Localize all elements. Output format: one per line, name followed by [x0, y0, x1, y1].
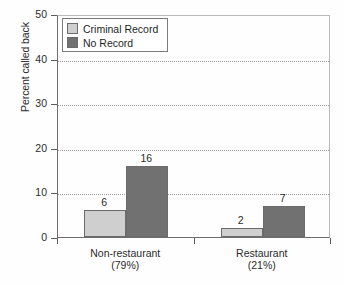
x-category-label: Restaurant(21%) [192, 247, 332, 271]
y-tick-label: 30 [17, 98, 47, 109]
gridline [58, 61, 329, 62]
x-tick-mark [57, 238, 58, 244]
x-category-name: Restaurant [236, 247, 287, 259]
y-tick-label: 20 [17, 143, 47, 154]
figure-caption [4, 276, 339, 285]
y-tick-label: 0 [17, 232, 47, 243]
x-category-share: (21%) [192, 259, 332, 271]
gridline [58, 105, 329, 106]
bar-criminal-record [221, 228, 263, 237]
gridline [58, 150, 329, 151]
legend: Criminal Record No Record [62, 18, 168, 52]
legend-item-no-record: No Record [67, 36, 163, 49]
legend-item-criminal-record: Criminal Record [67, 22, 163, 35]
y-tick-label: 40 [17, 54, 47, 65]
bar-value-label: 7 [268, 193, 298, 204]
y-tick-label: 50 [17, 9, 47, 20]
bar-value-label: 6 [89, 197, 119, 208]
legend-swatch-icon-no-record [67, 37, 78, 48]
x-category-name: Non-restaurant [90, 247, 160, 259]
x-tick-mark [194, 238, 195, 244]
bar-criminal-record [84, 210, 126, 237]
legend-label-criminal-record: Criminal Record [83, 23, 158, 35]
bar-no-record [263, 206, 305, 237]
x-tick-mark [330, 238, 331, 244]
bar-no-record [126, 166, 168, 237]
x-category-label: Non-restaurant(79%) [55, 247, 195, 271]
bar-value-label: 16 [131, 153, 161, 164]
y-axis-title: Percent called back [18, 0, 32, 152]
bar-chart-figure: Percent called back 01020304050 62167 No… [0, 0, 343, 285]
x-category-share: (79%) [55, 259, 195, 271]
y-tick-label: 10 [17, 187, 47, 198]
legend-label-no-record: No Record [83, 37, 133, 49]
legend-swatch-icon-criminal-record [67, 23, 78, 34]
bar-value-label: 2 [226, 215, 256, 226]
